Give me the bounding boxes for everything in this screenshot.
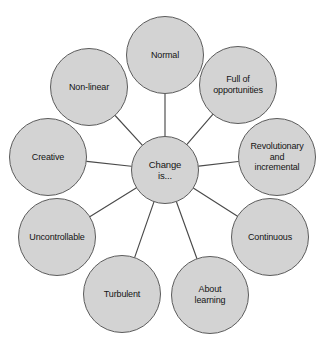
- node-full-of-opportunities[interactable]: Full of opportunities: [199, 46, 277, 124]
- node-label-revolutionary-and-incremental: Revolutionary and incremental: [246, 141, 307, 173]
- node-label-creative: Creative: [28, 152, 68, 163]
- node-turbulent[interactable]: Turbulent: [83, 255, 161, 333]
- node-label-full-of-opportunities: Full of opportunities: [209, 74, 267, 95]
- node-about-learning[interactable]: About learning: [171, 256, 249, 334]
- node-label-turbulent: Turbulent: [100, 289, 144, 300]
- node-label-uncontrollable: Uncontrollable: [25, 232, 88, 243]
- node-label-normal: Normal: [147, 50, 183, 61]
- node-continuous[interactable]: Continuous: [231, 198, 309, 276]
- node-label-continuous: Continuous: [244, 232, 296, 243]
- center-node-center[interactable]: Change is...: [131, 136, 199, 204]
- change-is-radial-diagram: NormalFull of opportunitiesRevolutionary…: [0, 0, 329, 344]
- center-node-label-center: Change is...: [145, 159, 185, 181]
- node-revolutionary-and-incremental[interactable]: Revolutionary and incremental: [238, 118, 316, 196]
- node-creative[interactable]: Creative: [9, 118, 87, 196]
- node-layer: NormalFull of opportunitiesRevolutionary…: [0, 0, 329, 344]
- node-label-non-linear: Non-linear: [65, 82, 113, 93]
- node-non-linear[interactable]: Non-linear: [50, 48, 128, 126]
- node-uncontrollable[interactable]: Uncontrollable: [18, 198, 96, 276]
- node-label-about-learning: About learning: [191, 284, 230, 305]
- node-normal[interactable]: Normal: [126, 16, 204, 94]
